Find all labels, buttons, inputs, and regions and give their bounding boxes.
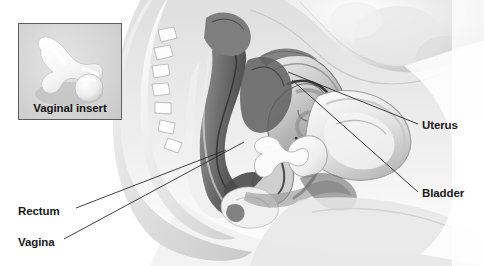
callout-label-uterus: Uterus bbox=[422, 119, 458, 131]
callout-label-vagina: Vagina bbox=[18, 236, 54, 248]
inset-label: Vaginal insert bbox=[19, 102, 121, 114]
leader-line-vagina bbox=[64, 142, 244, 239]
leader-line-uterus bbox=[288, 72, 418, 124]
illustration-stage: Vaginal insert Uterus Bladder Rectum Vag… bbox=[0, 0, 484, 266]
callout-label-rectum: Rectum bbox=[18, 205, 60, 217]
vaginal-insert-inset-panel: Vaginal insert bbox=[18, 23, 122, 120]
callout-label-bladder: Bladder bbox=[422, 187, 464, 199]
leader-line-bladder bbox=[292, 80, 418, 192]
leader-line-rectum bbox=[76, 150, 226, 208]
